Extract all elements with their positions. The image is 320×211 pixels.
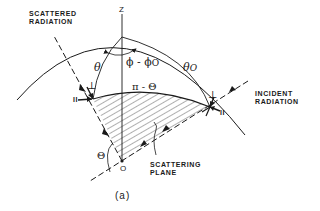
theta0-label: θO [183,62,197,74]
scattering-plane-region [93,92,210,161]
parallel-left-label: II [73,96,78,104]
origin-point [120,159,123,162]
origin-label: O [120,165,127,173]
scattered-ray-arrow [79,84,86,92]
scattering-plane-label: SCATTERING PLANE [150,161,201,177]
scattered-radiation-label: SCATTERED RADIATION [29,10,77,26]
parallel-right-label: II [220,109,225,117]
perp-left-label: ⊥ [87,80,96,91]
phi-difference-label: ϕ - ϕO [126,57,159,69]
theta-label: θ [94,62,101,73]
figure-caption: (a) [115,190,130,201]
pi-minus-theta-label: π - Θ [132,81,157,92]
perp-right-label: ⊥ [208,89,217,100]
scatter-angle-label: Θ [97,150,105,161]
incident-radiation-label: INCIDENT RADIATION [255,90,299,106]
scatter-angle-arc [107,144,112,172]
z-axis-label: Z [119,6,125,14]
